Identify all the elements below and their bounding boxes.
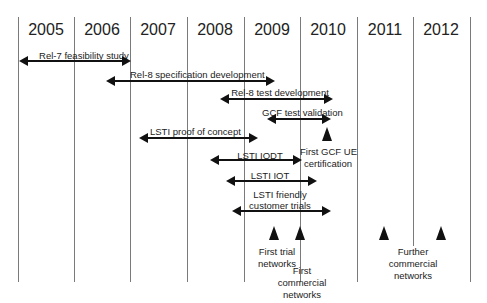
year-label-2006: 2006 (74, 21, 130, 39)
lsti-fct-arrow (234, 210, 329, 212)
lsti-fct-label: LSTI friendly customer trials (240, 189, 320, 211)
first-commercial-networks-label: First commercial networks (274, 265, 330, 301)
further-commercial-networks-marker-2011 (379, 226, 389, 240)
rel8-spec-arrow (108, 80, 273, 82)
further-commercial-networks-label: Further commercial networks (382, 246, 444, 282)
further-commercial-networks-marker-2012 (436, 226, 446, 240)
gcf-ue-certification-label: First GCF UE certification (300, 146, 356, 170)
year-divider (470, 17, 471, 282)
lsti-poc-label: LSTI proof of concept (150, 126, 240, 137)
year-label-2005: 2005 (18, 21, 74, 39)
rel8-test-arrow (222, 98, 331, 100)
gcf-ue-certification-marker (322, 127, 332, 141)
lsti-iot-arrow (228, 180, 315, 182)
year-divider (357, 17, 358, 282)
rel8-test-label: Rel-8 test development (230, 87, 330, 98)
year-label-2007: 2007 (130, 21, 186, 39)
year-label-2010: 2010 (300, 21, 356, 39)
year-divider (413, 17, 414, 282)
first-commercial-networks-marker (295, 226, 305, 240)
year-label-2012: 2012 (413, 21, 469, 39)
year-label-2008: 2008 (187, 21, 243, 39)
year-divider (187, 17, 188, 282)
rel8-spec-label: Rel-8 specification development (130, 69, 250, 80)
gcf-validation-arrow (269, 118, 329, 120)
year-label-2011: 2011 (357, 21, 413, 39)
first-trial-networks-marker (269, 226, 279, 240)
year-label-2009: 2009 (244, 21, 300, 39)
lsti-poc-arrow (141, 137, 256, 139)
lsti-iodt-arrow (212, 159, 300, 161)
rel7-feasibility-arrow (21, 60, 129, 62)
